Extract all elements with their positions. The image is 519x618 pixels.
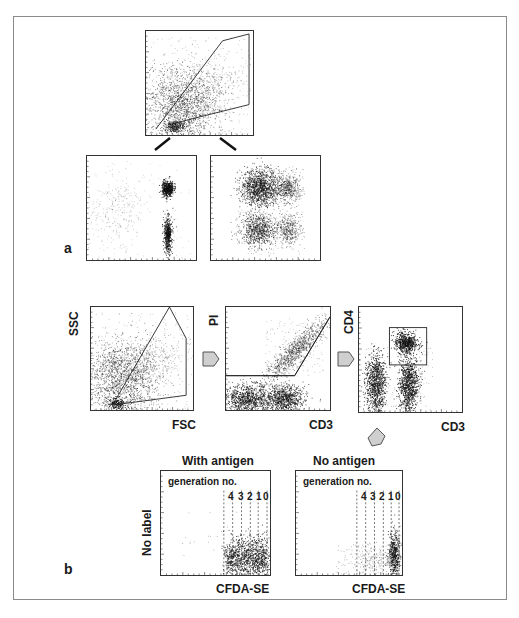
- y-axis-label-ssc: SSC: [67, 311, 81, 336]
- panel-label-b: b: [64, 561, 73, 577]
- generation-3: 3: [370, 491, 376, 502]
- plot-a-left-scatter: [86, 155, 197, 261]
- scatter-points: [359, 307, 462, 412]
- plot-b-cd3-pi: [225, 306, 331, 411]
- scatter-points: [226, 307, 330, 410]
- generation-2: 2: [379, 491, 385, 502]
- scatter-points: [146, 31, 253, 135]
- plot-a-right-scatter: [210, 155, 321, 261]
- x-axis-label-cfda-se: CFDA-SE: [216, 582, 269, 596]
- scatter-points: [211, 156, 320, 260]
- plot-a-top-scatter: [145, 30, 254, 136]
- generation-4: 4: [228, 491, 234, 502]
- generation-1: 1: [256, 491, 262, 502]
- generation-annotation: generation no.: [303, 476, 372, 487]
- x-axis-label-cd3: CD3: [309, 418, 333, 432]
- y-axis-label-pi: PI: [207, 315, 221, 326]
- plot-with-antigen: generation no. 4 3 2 1 0: [160, 470, 271, 576]
- plot-b-fsc-ssc: [90, 306, 194, 411]
- x-axis-label-fsc: FSC: [172, 418, 196, 432]
- y-axis-label-cd4: CD4: [342, 310, 356, 334]
- plot-no-antigen: generation no. 4 3 2 1 0: [295, 470, 403, 576]
- generation-annotation: generation no.: [168, 476, 237, 487]
- panel-label-a: a: [64, 240, 72, 256]
- plot-b-cd3-cd4: [358, 306, 463, 413]
- x-axis-label-cfda-se-2: CFDA-SE: [352, 582, 405, 596]
- y-axis-label-no-label: No label: [140, 509, 154, 556]
- scatter-points: [87, 156, 196, 260]
- scatter-points: [91, 307, 193, 410]
- x-axis-label-cd3-2: CD3: [441, 420, 465, 434]
- generation-0: 0: [263, 491, 269, 502]
- generation-0: 0: [395, 491, 401, 502]
- generation-3: 3: [238, 491, 244, 502]
- title-no-antigen: No antigen: [313, 454, 375, 468]
- generation-2: 2: [247, 491, 253, 502]
- generation-4: 4: [361, 491, 367, 502]
- generation-1: 1: [388, 491, 394, 502]
- title-with-antigen: With antigen: [182, 454, 254, 468]
